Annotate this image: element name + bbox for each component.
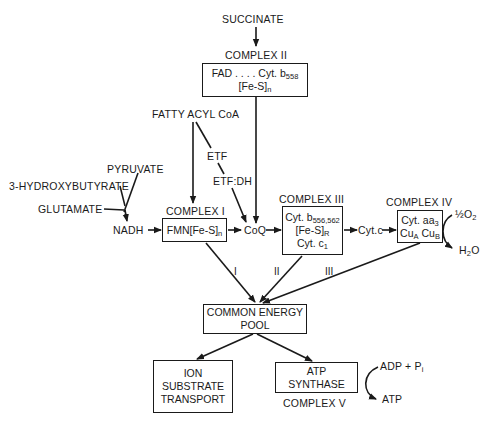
cyt-c1-text: Cyt. c — [297, 237, 324, 249]
atp-synthase-line1: ATP — [307, 365, 327, 378]
site-ii-label: II — [274, 266, 280, 277]
fmn-subscript: n — [218, 229, 222, 238]
energy-pool-line2: POOL — [240, 319, 269, 332]
energy-pool-line1: COMMON ENERGY — [207, 306, 303, 319]
fe-s-text: [Fe-S] — [239, 80, 268, 92]
hydroxybutyrate-label: 3-HYDROXYBUTYRATE — [9, 180, 129, 192]
glutamate-label: GLUTAMATE — [38, 203, 102, 215]
complex-ii-title: COMPLEX II — [225, 49, 287, 61]
complex-iii-line2: [Fe-S]R — [295, 224, 329, 237]
atp-synthase-box: ATP SYNTHASE — [275, 362, 358, 393]
cu-a-text: Cu — [400, 227, 413, 239]
water-label: H2O — [459, 244, 480, 256]
complex-iv-title: COMPLEX IV — [386, 196, 452, 208]
complex-iii-box: Cyt. b556,562 [Fe-S]R Cyt. c1 — [282, 206, 343, 255]
etf-label: ETF — [207, 150, 227, 162]
complex-iv-line2: CuA CuB — [400, 227, 440, 240]
complex-i-box: FMN[Fe-S]n — [162, 218, 227, 242]
ion-line2: SUBSTRATE — [162, 380, 224, 393]
fad-cyt-b-text: FAD . . . . Cyt. b — [212, 67, 286, 79]
complex-i-line1: FMN[Fe-S]n — [167, 224, 223, 237]
cyt-c1-subscript: 1 — [324, 242, 328, 251]
pyruvate-label: PYRUVATE — [107, 163, 164, 175]
etf-dh-label: ETF:DH — [213, 175, 252, 187]
complex-iii-line3: Cyt. c1 — [297, 237, 328, 250]
complex-iii-line1: Cyt. b556,562 — [285, 211, 340, 224]
cyt-b-subscript: 558 — [286, 72, 299, 81]
atp-synthase-line2: SYNTHASE — [288, 378, 345, 391]
complex-v-title: COMPLEX V — [283, 397, 346, 409]
adp-text: ADP + P — [380, 360, 422, 372]
cu-b-text: Cu — [419, 227, 435, 239]
cyt-b-text: Cyt. b — [285, 211, 312, 223]
fe-s-r-text: [Fe-S] — [295, 224, 324, 236]
o2-subscript: 2 — [472, 213, 476, 222]
oxygen-label: ½O2 — [455, 208, 477, 220]
complex-ii-line1: FAD . . . . Cyt. b558 — [212, 67, 299, 80]
site-iii-label: III — [325, 266, 333, 277]
fmn-fe-s-text: FMN[Fe-S] — [167, 224, 218, 236]
coq-label: CoQ — [244, 224, 266, 236]
complex-ii-box: FAD . . . . Cyt. b558 [Fe-S]n — [202, 63, 308, 97]
common-energy-pool-box: COMMON ENERGY POOL — [203, 304, 307, 334]
succinate-label: SUCCINATE — [222, 13, 284, 25]
ion-line1: ION — [184, 367, 203, 380]
fatty-acyl-coa-label: FATTY ACYL CoA — [152, 108, 239, 120]
ion-line3: TRANSPORT — [161, 393, 226, 406]
site-i-label: I — [234, 266, 237, 277]
complex-ii-line2: [Fe-S]n — [239, 80, 272, 93]
h-text: H — [459, 244, 467, 256]
cyt-aa3-text: Cyt. aa — [401, 214, 434, 226]
complex-iv-line1: Cyt. aa3 — [401, 214, 438, 227]
complex-iii-title: COMPLEX III — [279, 193, 344, 205]
adp-pi-label: ADP + Pi — [380, 360, 424, 372]
half-o-text: ½O — [455, 208, 472, 220]
pi-subscript: i — [422, 365, 424, 374]
atp-label: ATP — [382, 393, 402, 405]
fe-s-subscript: n — [267, 85, 271, 94]
ion-substrate-transport-box: ION SUBSTRATE TRANSPORT — [153, 360, 233, 413]
nadh-label: NADH — [113, 224, 144, 236]
o-text: O — [471, 244, 479, 256]
complex-i-title: COMPLEX I — [166, 205, 225, 217]
complex-iv-box: Cyt. aa3 CuA CuB — [397, 210, 443, 243]
cu-b-subscript: B — [435, 232, 440, 241]
cyt-c-label: Cyt.c — [358, 224, 383, 236]
